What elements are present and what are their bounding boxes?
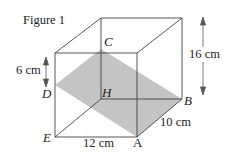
vertex-label-a: A [133, 136, 142, 149]
dimension-6cm: 6 cm [16, 64, 41, 77]
dimension-10cm: 10 cm [160, 116, 191, 129]
vertex-label-h: H [102, 86, 111, 99]
arrow-6cm-up-icon [44, 57, 49, 65]
vertex-label-c: C [104, 35, 113, 48]
arrow-16cm-up-icon [201, 17, 206, 25]
edge-top-right [137, 18, 182, 53]
dimension-16cm: 16 cm [189, 48, 220, 61]
vertex-label-e: E [43, 131, 51, 144]
figure-title: Figure 1 [23, 14, 65, 27]
dimension-12cm: 12 cm [83, 137, 114, 150]
arrow-16cm-down-icon [201, 87, 206, 95]
vertex-label-d: D [42, 87, 51, 100]
edge-bottom-left [55, 99, 101, 137]
cuboid-figure: Figure 1 C D H B E A 6 cm 16 cm 12 cm 10… [0, 0, 234, 154]
vertex-label-b: B [184, 94, 192, 107]
